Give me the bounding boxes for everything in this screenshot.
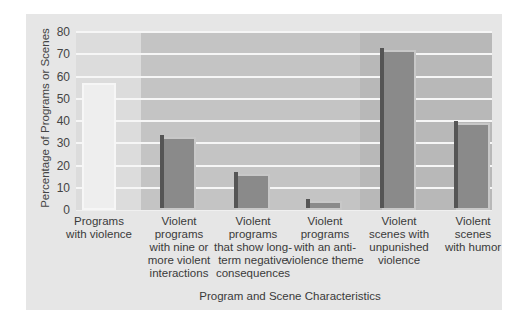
- x-category-label: Violentsceneswith humor: [433, 215, 513, 254]
- y-tick-label: 80: [38, 26, 70, 38]
- y-tick-label: 60: [38, 71, 70, 83]
- x-axis-title: Program and Scene Characteristics: [160, 290, 420, 302]
- y-tick-label: 30: [38, 137, 70, 149]
- x-category-label: Violentprogramswith an anti-violence the…: [285, 215, 365, 267]
- x-category-label: Violentprogramsthat show long-term negat…: [213, 215, 293, 280]
- x-category-label: Programswith violence: [59, 215, 139, 241]
- gridline: [76, 187, 492, 189]
- y-tick-label: 10: [38, 182, 70, 194]
- x-category-label: Violentprogramswith nine ormore violenti…: [139, 215, 219, 280]
- bar: [236, 174, 270, 210]
- bar: [162, 137, 196, 210]
- gridline: [76, 120, 492, 122]
- bar-shadow: [160, 135, 164, 208]
- bar-shadow: [380, 48, 384, 208]
- bar: [456, 123, 490, 210]
- bar: [82, 83, 116, 210]
- bar: [308, 201, 342, 210]
- bar-shadow: [306, 199, 310, 208]
- gridline: [76, 53, 492, 55]
- bar-shadow: [234, 172, 238, 208]
- bar: [382, 50, 416, 210]
- gridline: [76, 98, 492, 100]
- plot-area: [76, 32, 492, 210]
- gridline: [76, 142, 492, 144]
- bar-shadow: [454, 121, 458, 208]
- gridline: [76, 165, 492, 167]
- y-tick-label: 40: [38, 115, 70, 127]
- baseline: [76, 210, 492, 211]
- y-tick-label: 50: [38, 93, 70, 105]
- y-tick-label: 70: [38, 48, 70, 60]
- x-category-label: Violentscenes withunpunishedviolence: [359, 215, 439, 267]
- gridline: [76, 76, 492, 78]
- y-tick-label: 20: [38, 160, 70, 172]
- gridline: [76, 31, 492, 33]
